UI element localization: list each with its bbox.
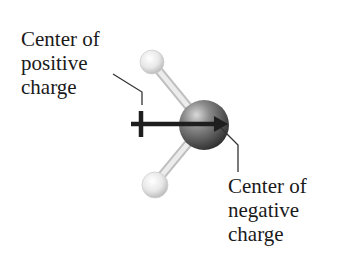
label-positive-line-2: positive — [21, 51, 100, 75]
label-negative-line-1: Center of — [228, 174, 307, 198]
label-negative-line-2: negative — [228, 198, 307, 222]
label-center-of-positive-charge: Center of positive charge — [21, 27, 100, 99]
leader-line-positive — [113, 74, 142, 105]
hydrogen-atom-top — [140, 50, 164, 74]
label-positive-line-1: Center of — [21, 27, 100, 51]
label-center-of-negative-charge: Center of negative charge — [228, 174, 307, 246]
label-negative-line-3: charge — [228, 222, 307, 246]
label-positive-line-3: charge — [21, 75, 100, 99]
hydrogen-atom-bottom — [142, 172, 168, 198]
